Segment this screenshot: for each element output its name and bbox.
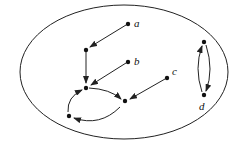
- edge-n3-to-n4: [74, 107, 120, 121]
- node-a: [126, 22, 130, 26]
- edge-n2-to-n3: [89, 88, 121, 99]
- edge-n4-to-n2: [68, 90, 82, 112]
- edge-b-to-n2: [91, 63, 126, 85]
- label-c: c: [172, 65, 177, 77]
- boundary-ellipse: [20, 5, 228, 139]
- node-n3: [123, 99, 127, 103]
- edge-dtop-to-d: [206, 45, 210, 91]
- edge-c-to-n3: [130, 79, 165, 99]
- node-d-top: [202, 40, 206, 44]
- edge-d-to-dtop: [198, 46, 202, 92]
- node-n1: [84, 48, 88, 52]
- node-n4: [67, 114, 71, 118]
- label-a: a: [134, 17, 140, 29]
- node-c: [165, 76, 169, 80]
- node-n2: [84, 86, 88, 90]
- label-d: d: [199, 100, 205, 112]
- node-d: [202, 93, 206, 97]
- graph-diagram: a b c d: [0, 0, 248, 145]
- node-b: [126, 60, 130, 64]
- edge-a-to-n1: [90, 25, 126, 47]
- label-b: b: [134, 55, 140, 67]
